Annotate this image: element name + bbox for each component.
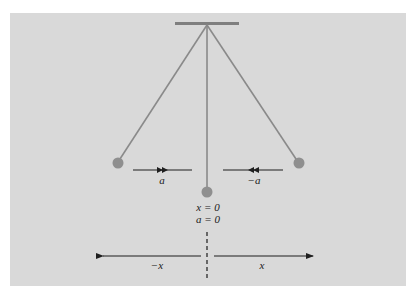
pendulum-diagram: a −a x = 0 a = 0 −x x — [0, 0, 419, 297]
center-position-label: x = 0 — [196, 202, 219, 213]
center-bob — [202, 187, 213, 198]
right-bob — [294, 158, 305, 169]
background-panel — [10, 13, 406, 286]
positive-x-label: x — [260, 260, 265, 271]
center-accel-label: a = 0 — [196, 214, 220, 225]
negative-x-label: −x — [151, 260, 163, 271]
left-bob — [113, 158, 124, 169]
diagram-canvas — [0, 0, 419, 297]
right-accel-label: −a — [248, 175, 261, 186]
left-accel-label: a — [159, 175, 165, 186]
ceiling-support — [175, 22, 239, 25]
